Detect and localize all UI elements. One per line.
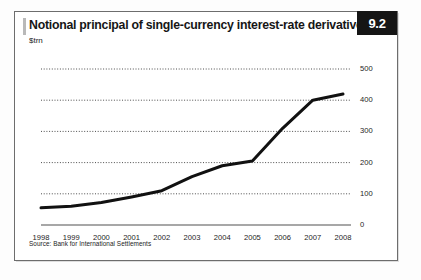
- x-axis-tick-2008: 2008: [328, 233, 358, 242]
- x-axis-tick-2002: 2002: [147, 233, 177, 242]
- x-axis-tick-2003: 2003: [177, 233, 207, 242]
- plot-area: 0100200300400500 19981999200020012002200…: [15, 54, 399, 262]
- y-axis-tick-100: 100: [360, 189, 386, 198]
- y-axis-tick-500: 500: [360, 64, 386, 73]
- y-axis-tick-400: 400: [360, 95, 386, 104]
- figure-header: Notional principal of single-currency in…: [15, 12, 397, 54]
- x-axis-tick-2005: 2005: [237, 233, 267, 242]
- page-title: Notional principal of single-currency in…: [29, 17, 369, 33]
- source-note: Source: Bank for International Settlemen…: [29, 239, 151, 248]
- y-axis-tick-0: 0: [360, 220, 386, 229]
- figure-page: Notional principal of single-currency in…: [0, 0, 421, 280]
- figure-number-badge: 9.2: [357, 11, 397, 35]
- x-axis-tick-2004: 2004: [207, 233, 237, 242]
- x-axis-tick-2007: 2007: [298, 233, 328, 242]
- figure-frame: Notional principal of single-currency in…: [14, 11, 398, 261]
- title-rule-decoration: [23, 18, 26, 35]
- x-axis-tick-2006: 2006: [268, 233, 298, 242]
- line-chart-svg: [15, 54, 399, 262]
- y-axis-tick-300: 300: [360, 126, 386, 135]
- y-axis-tick-200: 200: [360, 158, 386, 167]
- chart-units-label: $trn: [29, 35, 43, 46]
- series-line-notional-principal: [41, 94, 343, 208]
